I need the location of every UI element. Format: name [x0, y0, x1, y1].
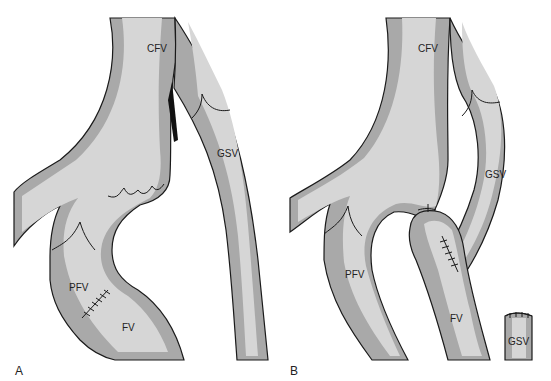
panel-b-label: B: [290, 364, 298, 378]
panel-b: CFV GSV PFV FV GSV B: [290, 18, 532, 378]
vein-diagram: CFV GSV PFV FV A CFV GSV PFV FV GSV B: [0, 0, 551, 381]
panel-a-gsv-label: GSV: [217, 148, 238, 159]
panel-a-pfv-label: PFV: [69, 282, 89, 293]
panel-b-fv-label: FV: [450, 313, 463, 324]
panel-a-fv-label: FV: [122, 322, 135, 333]
panel-a-label: A: [15, 364, 23, 378]
panel-b-gsv-label: GSV: [485, 169, 506, 180]
panel-a: CFV GSV PFV FV A: [14, 18, 268, 378]
panel-a-cfv-label: CFV: [147, 43, 167, 54]
panel-b-pfv-label: PFV: [345, 269, 365, 280]
panel-b-cfv-label: CFV: [418, 43, 438, 54]
panel-b-gsv-stump-label: GSV: [508, 336, 529, 347]
